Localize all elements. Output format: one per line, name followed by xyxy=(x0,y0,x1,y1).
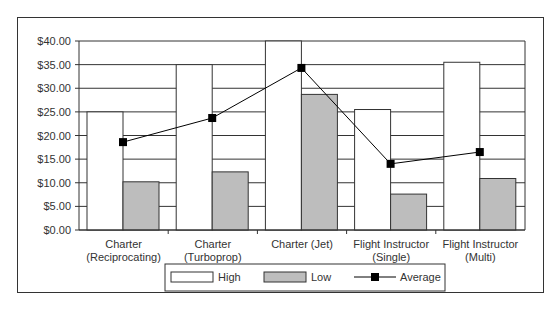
legend-label-average: Average xyxy=(400,271,441,283)
x-tick-label: (Multi) xyxy=(465,251,496,263)
legend-label-high: High xyxy=(218,271,241,283)
bar-low xyxy=(480,178,516,230)
average-marker xyxy=(297,64,305,72)
x-tick-label: (Single) xyxy=(372,251,410,263)
legend-swatch-average xyxy=(371,273,379,281)
x-axis-labels: Charter(Reciprocating)Charter(Turboprop)… xyxy=(86,238,518,263)
average-marker xyxy=(208,114,216,122)
bar-high xyxy=(444,62,480,230)
y-tick-label: $35.00 xyxy=(37,59,71,71)
bar-high xyxy=(265,41,301,230)
legend-swatch-high xyxy=(171,272,213,282)
x-tick-label: (Turboprop) xyxy=(184,251,242,263)
y-tick-label: $10.00 xyxy=(37,177,71,189)
y-tick-label: $5.00 xyxy=(43,200,71,212)
bar-high xyxy=(176,65,212,230)
y-tick-label: $20.00 xyxy=(37,130,71,142)
average-marker xyxy=(387,160,395,168)
legend-swatch-low xyxy=(264,272,306,282)
x-tick-label: Charter (Jet) xyxy=(271,238,333,250)
y-tick-label: $40.00 xyxy=(37,35,71,47)
x-tick-label: Charter xyxy=(194,238,231,250)
legend-label-low: Low xyxy=(311,271,331,283)
x-tick-label: Flight Instructor xyxy=(353,238,429,250)
bar-low xyxy=(391,194,427,230)
chart: $0.00$5.00$10.00$15.00$20.00$25.00$30.00… xyxy=(0,0,558,323)
y-tick-label: $25.00 xyxy=(37,106,71,118)
x-tick-label: Charter xyxy=(105,238,142,250)
bar-low xyxy=(123,182,159,230)
average-marker xyxy=(476,148,484,156)
bar-high xyxy=(87,112,123,230)
legend: HighLowAverage xyxy=(165,264,445,291)
x-tick-label: (Reciprocating) xyxy=(86,251,161,263)
bar-low xyxy=(212,172,248,230)
y-tick-label: $30.00 xyxy=(37,82,71,94)
bar-high xyxy=(355,110,391,230)
average-marker xyxy=(119,138,127,146)
x-tick-label: Flight Instructor xyxy=(442,238,518,250)
y-tick-label: $15.00 xyxy=(37,153,71,165)
y-axis-labels: $0.00$5.00$10.00$15.00$20.00$25.00$30.00… xyxy=(37,35,79,236)
bar-low xyxy=(301,94,337,230)
y-tick-label: $0.00 xyxy=(43,224,71,236)
